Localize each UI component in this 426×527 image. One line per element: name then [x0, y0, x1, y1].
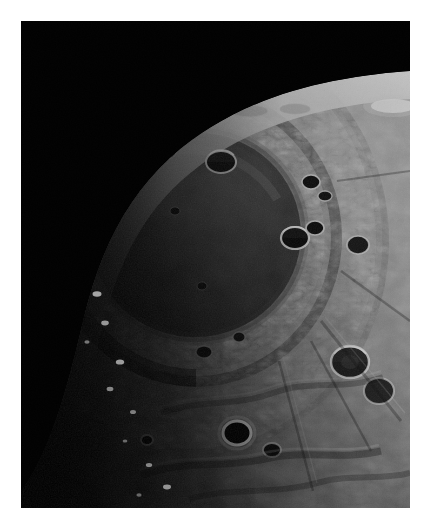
photo-canvas [21, 21, 410, 508]
photo-page [0, 0, 426, 527]
lunar-photograph [21, 21, 410, 508]
